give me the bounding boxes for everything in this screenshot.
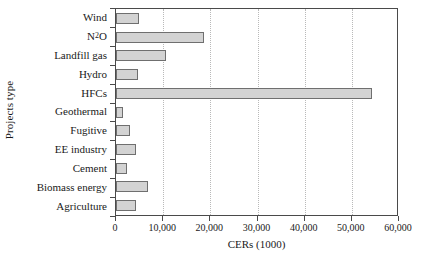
x-axis-title: CERs (1000) xyxy=(115,238,398,250)
bar-row xyxy=(116,84,397,103)
x-axis-tick-label: 60,000 xyxy=(384,222,412,233)
bar-row xyxy=(116,65,397,84)
bar-row xyxy=(116,103,397,122)
x-axis-tick xyxy=(304,216,305,221)
bar-row xyxy=(116,28,397,47)
x-axis-tick-label: 0 xyxy=(113,222,118,233)
bar-row xyxy=(116,46,397,65)
plot-area xyxy=(115,8,398,216)
x-axis-tick-label: 40,000 xyxy=(290,222,318,233)
bar xyxy=(116,50,166,61)
bar-row xyxy=(116,9,397,28)
y-axis-tick-label: Agriculture xyxy=(16,197,112,216)
bar-row xyxy=(116,196,397,215)
y-axis-tick-label: Landfill gas xyxy=(16,46,112,65)
bar-group xyxy=(116,9,397,215)
x-axis-tick-marks xyxy=(115,216,398,221)
x-axis-tick xyxy=(209,216,210,221)
y-axis-tick-label: EE industry xyxy=(16,140,112,159)
bar xyxy=(116,125,130,136)
y-axis-title-label: Projects type xyxy=(3,81,15,139)
x-axis-tick-label: 20,000 xyxy=(196,222,224,233)
x-axis-tick-label-list: 010,00020,00030,00040,00050,00060,000 xyxy=(75,222,426,236)
x-axis-tick xyxy=(162,216,163,221)
bar xyxy=(116,13,139,24)
bar xyxy=(116,107,123,118)
y-axis-tick-label: Wind xyxy=(16,8,112,27)
bar xyxy=(116,200,136,211)
bar xyxy=(116,69,138,80)
bar xyxy=(116,144,136,155)
y-axis-tick-label: Fugitive xyxy=(16,121,112,140)
y-axis-tick-label: N2O xyxy=(16,27,112,46)
x-axis-tick-label: 50,000 xyxy=(337,222,365,233)
bar-row xyxy=(116,159,397,178)
bar xyxy=(116,88,372,99)
y-axis-tick-label: Geothermal xyxy=(16,103,112,122)
bar xyxy=(116,181,148,192)
y-axis-tick-label: Cement xyxy=(16,159,112,178)
bar xyxy=(116,163,127,174)
x-axis-tick xyxy=(351,216,352,221)
bar xyxy=(116,32,204,43)
x-axis-tick xyxy=(398,216,399,221)
bar-row xyxy=(116,140,397,159)
y-axis-tick-label: Hydro xyxy=(16,65,112,84)
y-axis-tick-label-list: WindN2OLandfill gasHydroHFCsGeothermalFu… xyxy=(16,8,112,216)
bar-row xyxy=(116,178,397,197)
x-axis-tick xyxy=(115,216,116,221)
x-axis-tick-label: 30,000 xyxy=(243,222,271,233)
x-axis-tick-label: 10,000 xyxy=(148,222,176,233)
bar-row xyxy=(116,121,397,140)
bar-chart-figure: Projects type WindN2OLandfill gasHydroHF… xyxy=(0,0,426,277)
y-axis-tick-label: HFCs xyxy=(16,84,112,103)
y-axis-tick-label: Biomass energy xyxy=(16,178,112,197)
x-axis-tick xyxy=(257,216,258,221)
